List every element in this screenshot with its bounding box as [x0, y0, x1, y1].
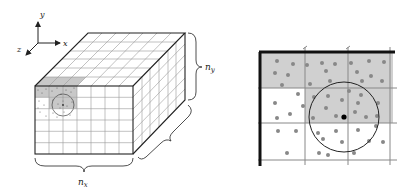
axis-label-z: z	[16, 45, 22, 54]
label-ny: ny	[205, 62, 216, 74]
boundary-ticks	[303, 46, 350, 49]
left-panel: y x z	[16, 10, 216, 189]
figure-canvas: y x z	[0, 0, 411, 191]
brace-nx	[35, 158, 133, 172]
axis-triad-icon: y x z	[16, 10, 68, 55]
box-front-face	[35, 86, 133, 154]
brace-ny	[188, 33, 202, 100]
right-panel	[258, 46, 397, 166]
center-particle	[341, 114, 346, 119]
label-nx: nx	[78, 177, 88, 189]
axis-label-x: x	[63, 39, 68, 48]
axis-label-y: y	[39, 10, 45, 19]
